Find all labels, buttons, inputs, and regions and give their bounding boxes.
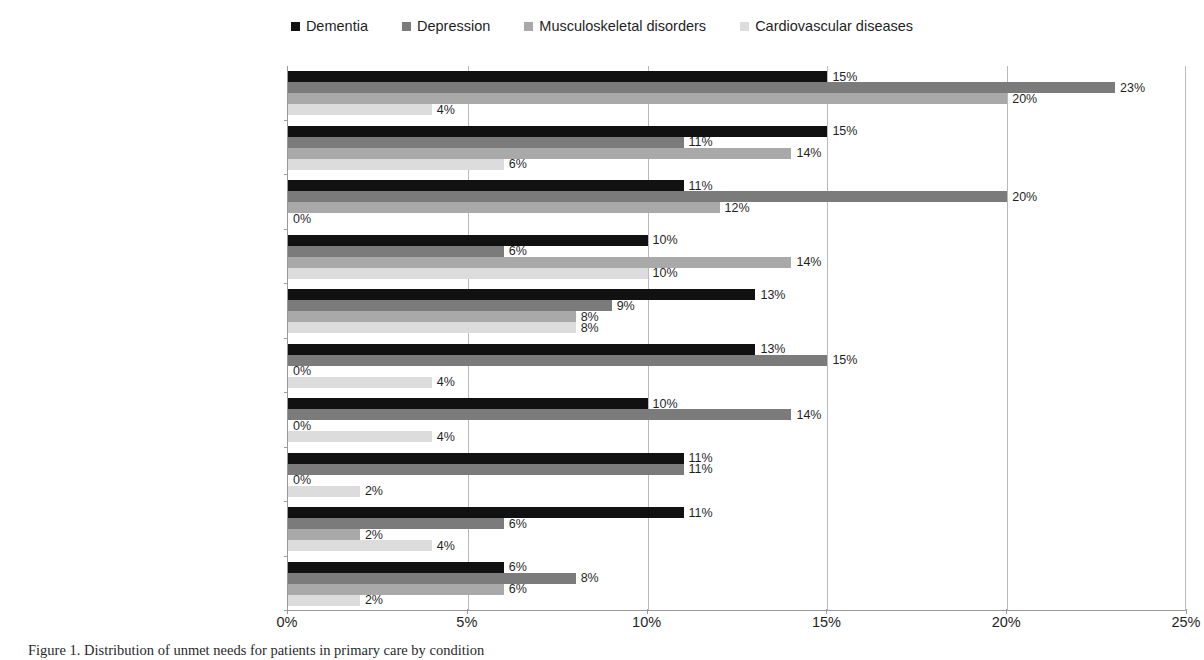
bar-depression[interactable]: 11% — [288, 137, 1187, 148]
legend-entry[interactable]: Dementia — [291, 18, 368, 34]
category-group: Eyesight/hearing/communication10%6%14%10… — [288, 230, 1185, 285]
bar-value-label: 13% — [760, 289, 785, 302]
bar-value-label: 10% — [653, 398, 678, 411]
bar-fill — [288, 257, 791, 268]
bar-musculoskeletal-disorders[interactable]: 20% — [288, 93, 1187, 104]
bar-musculoskeletal-disorders[interactable]: 6% — [288, 584, 1187, 595]
x-axis-tick-label: 25% — [1171, 614, 1200, 630]
bar-value-label: 0% — [293, 365, 311, 378]
legend-entry[interactable]: Cardiovascular diseases — [740, 18, 913, 34]
legend-entry[interactable]: Musculoskeletal disorders — [524, 18, 706, 34]
bar-dementia[interactable]: 10% — [288, 235, 1187, 246]
bar-fill — [288, 180, 684, 191]
bar-value-label: 0% — [293, 213, 311, 226]
bar-value-label: 20% — [1012, 191, 1037, 204]
bar-dementia[interactable]: 10% — [288, 398, 1187, 409]
bar-cardiovascular-diseases[interactable]: 4% — [288, 104, 1187, 115]
bar-depression[interactable]: 6% — [288, 246, 1187, 257]
bar-fill — [288, 431, 432, 442]
bar-value-label: 14% — [796, 147, 821, 160]
bar-value-label: 6% — [509, 583, 527, 596]
category-group: Daytime activities11%6%2%4% — [288, 502, 1185, 557]
bar-value-label: 23% — [1120, 82, 1145, 95]
bar-value-label: 2% — [365, 594, 383, 607]
legend-entry[interactable]: Depression — [402, 18, 490, 34]
bar-value-label: 10% — [653, 267, 678, 280]
bar-musculoskeletal-disorders[interactable]: 8% — [288, 311, 1187, 322]
bar-dementia[interactable]: 15% — [288, 126, 1187, 137]
bar-value-label: 11% — [689, 463, 713, 476]
bar-fill — [288, 202, 720, 213]
legend-swatch-icon — [740, 22, 749, 31]
bar-fill — [288, 486, 360, 497]
bar-musculoskeletal-disorders[interactable]: 14% — [288, 257, 1187, 268]
bar-musculoskeletal-disorders[interactable]: 2% — [288, 529, 1187, 540]
legend-swatch-icon — [291, 22, 300, 31]
x-axis-tick-label: 10% — [632, 614, 661, 630]
bar-depression[interactable]: 14% — [288, 409, 1187, 420]
bar-value-label: 6% — [509, 158, 527, 171]
bar-fill — [288, 355, 827, 366]
bar-cardiovascular-diseases[interactable]: 4% — [288, 540, 1187, 551]
bar-cardiovascular-diseases[interactable]: 6% — [288, 159, 1187, 170]
bar-value-label: 8% — [581, 572, 599, 585]
bar-depression[interactable]: 8% — [288, 573, 1187, 584]
bar-value-label: 6% — [509, 245, 527, 258]
bar-dementia[interactable]: 13% — [288, 289, 1187, 300]
bar-value-label: 15% — [832, 354, 857, 367]
category-group: Behaviour10%14%0%4% — [288, 393, 1185, 448]
bar-musculoskeletal-disorders[interactable]: 12% — [288, 202, 1187, 213]
bar-cardiovascular-diseases[interactable]: 4% — [288, 431, 1187, 442]
bar-dementia[interactable]: 6% — [288, 562, 1187, 573]
bar-dementia[interactable]: 13% — [288, 344, 1187, 355]
bar-depression[interactable]: 9% — [288, 300, 1187, 311]
bar-depression[interactable]: 15% — [288, 355, 1187, 366]
bar-fill — [288, 137, 684, 148]
bar-fill — [288, 82, 1115, 93]
x-axis: 0%5%10%15%20%25% — [287, 614, 1186, 636]
bar-fill — [288, 268, 648, 279]
bar-dementia[interactable]: 15% — [288, 71, 1187, 82]
bar-depression[interactable]: 11% — [288, 464, 1187, 475]
bar-value-label: 14% — [796, 409, 821, 422]
bar-fill — [288, 573, 576, 584]
bar-musculoskeletal-disorders[interactable]: 14% — [288, 148, 1187, 159]
legend-label: Musculoskeletal disorders — [539, 18, 706, 34]
bar-fill — [288, 344, 755, 355]
bar-dementia[interactable]: 11% — [288, 507, 1187, 518]
bar-value-label: 6% — [509, 518, 527, 531]
category-group: Mobility11%20%12%0% — [288, 175, 1185, 230]
bar-cardiovascular-diseases[interactable]: 2% — [288, 486, 1187, 497]
bar-value-label: 4% — [437, 431, 455, 444]
bar-musculoskeletal-disorders[interactable]: 0% — [288, 366, 1187, 377]
bar-value-label: 8% — [581, 322, 599, 335]
bar-fill — [288, 518, 504, 529]
bar-musculoskeletal-disorders[interactable]: 0% — [288, 420, 1187, 431]
x-axis-tick-label: 0% — [277, 614, 298, 630]
bar-musculoskeletal-disorders[interactable]: 0% — [288, 475, 1187, 486]
bar-fill — [288, 311, 576, 322]
bar-dementia[interactable]: 11% — [288, 453, 1187, 464]
bar-fill — [288, 159, 504, 170]
bar-cardiovascular-diseases[interactable]: 4% — [288, 377, 1187, 388]
bar-value-label: 11% — [689, 507, 713, 520]
bar-depression[interactable]: 6% — [288, 518, 1187, 529]
x-axis-tick-label: 20% — [992, 614, 1021, 630]
bar-depression[interactable]: 23% — [288, 82, 1187, 93]
bar-value-label: 4% — [437, 104, 455, 117]
bar-dementia[interactable]: 11% — [288, 180, 1187, 191]
bar-value-label: 15% — [832, 125, 857, 138]
bar-cardiovascular-diseases[interactable]: 0% — [288, 213, 1187, 224]
chart-legend: DementiaDepressionMusculoskeletal disord… — [0, 16, 1204, 36]
bar-cardiovascular-diseases[interactable]: 2% — [288, 595, 1187, 606]
plot-area: Physical health15%23%20%4%Information15%… — [287, 66, 1186, 611]
bar-fill — [288, 584, 504, 595]
bar-fill — [288, 529, 360, 540]
bar-value-label: 10% — [653, 234, 678, 247]
bar-fill — [288, 377, 432, 388]
bar-fill — [288, 191, 1007, 202]
bar-fill — [288, 322, 576, 333]
bar-value-label: 4% — [437, 540, 455, 553]
bar-cardiovascular-diseases[interactable]: 10% — [288, 268, 1187, 279]
bar-cardiovascular-diseases[interactable]: 8% — [288, 322, 1187, 333]
